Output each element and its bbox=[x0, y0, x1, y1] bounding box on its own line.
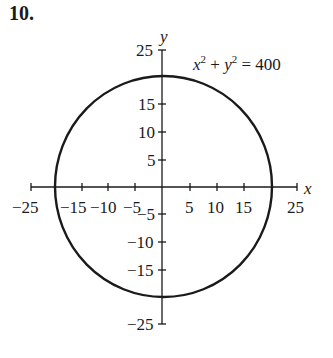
x-tick-label: 25 bbox=[287, 198, 304, 217]
y-tick-label: 15 bbox=[138, 95, 155, 114]
eq-rhs: = 400 bbox=[237, 55, 281, 74]
x-tick-label: −15 bbox=[60, 198, 87, 217]
eq-plus: + bbox=[206, 55, 224, 74]
x-tick-label: −25 bbox=[12, 198, 39, 217]
x-tick-label: 5 bbox=[185, 198, 194, 217]
y-tick-label: −10 bbox=[127, 233, 154, 252]
eq-y: y bbox=[222, 55, 232, 74]
x-tick-label: 15 bbox=[235, 198, 252, 217]
y-tick-label: −15 bbox=[127, 261, 154, 280]
x-tick-label: −10 bbox=[90, 198, 117, 217]
y-tick-label: 25 bbox=[136, 41, 153, 60]
y-tick-label: −25 bbox=[127, 315, 154, 334]
y-tick-label: −5 bbox=[137, 205, 155, 224]
equation-label: x2 + y2 = 400 bbox=[192, 53, 281, 74]
circle-graph: x y x2 + y2 = 400 −25 −15 −10 −5 5 10 15… bbox=[0, 0, 333, 358]
y-tick-label: 10 bbox=[138, 123, 155, 142]
y-axis-label: y bbox=[158, 27, 168, 46]
y-tick-label: 5 bbox=[147, 151, 156, 170]
x-axis-label: x bbox=[303, 179, 312, 198]
x-tick-label: 10 bbox=[207, 198, 224, 217]
x-axis bbox=[31, 183, 297, 191]
